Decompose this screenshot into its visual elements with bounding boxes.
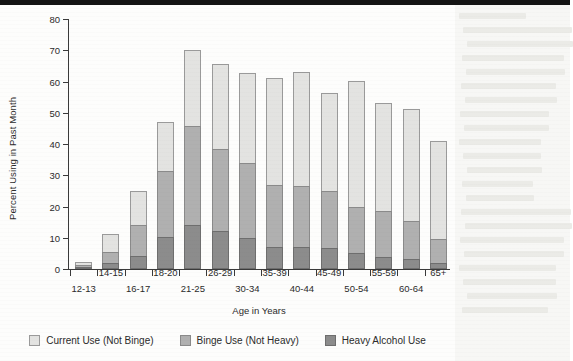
stacked-bar	[403, 109, 420, 269]
stacked-bar	[375, 103, 392, 269]
x-axis-category-label: 16-17	[126, 283, 150, 294]
stacked-bar	[157, 122, 174, 269]
stacked-bar	[184, 50, 201, 269]
bleedthrough-text-line	[464, 125, 549, 131]
bar-segment-binge-use	[348, 207, 365, 253]
x-axis-tick	[179, 270, 180, 276]
x-axis-category-label: 26-29	[208, 267, 232, 278]
bleedthrough-text-line	[462, 307, 548, 313]
bar-segment-current-use	[321, 93, 338, 191]
bar-segment-current-use	[266, 78, 283, 184]
y-axis-tick	[63, 238, 68, 239]
stacked-bar	[348, 81, 365, 269]
light-gray-swatch-icon	[29, 335, 40, 346]
y-axis-title: Percent Using in Past Month	[7, 69, 18, 249]
x-axis-category-label: 60-64	[399, 283, 423, 294]
x-axis-tick	[425, 270, 426, 276]
bar-segment-current-use	[430, 141, 447, 239]
legend-item-binge-use: Binge Use (Not Heavy)	[180, 335, 299, 346]
x-axis-category-label: 55-59	[372, 267, 396, 278]
bar-segment-heavy-alcohol-use	[348, 253, 365, 269]
y-axis-tick-label: 60	[49, 76, 60, 87]
bleedthrough-text-line	[459, 139, 541, 145]
legend-label: Heavy Alcohol Use	[342, 335, 426, 346]
y-axis-tick	[63, 144, 68, 145]
bleedthrough-text-line	[461, 209, 571, 215]
bleedthrough-text-line	[462, 181, 533, 187]
stacked-bar	[293, 72, 310, 270]
bleedthrough-text-line	[459, 13, 526, 19]
bar-segment-current-use	[130, 191, 147, 225]
x-axis-tick	[288, 270, 289, 276]
page-text-bleedthrough-panel	[455, 5, 570, 361]
y-axis-tick	[63, 19, 68, 20]
bar-segment-current-use	[293, 72, 310, 187]
medium-gray-swatch-icon	[180, 335, 191, 346]
bar-segment-binge-use	[293, 186, 310, 247]
bar-segment-heavy-alcohol-use	[293, 247, 310, 269]
bleedthrough-text-line	[467, 293, 557, 299]
bar-segment-heavy-alcohol-use	[75, 267, 92, 269]
bleedthrough-text-line	[465, 223, 572, 229]
stacked-bar	[130, 191, 147, 269]
bar-segment-current-use	[102, 234, 119, 252]
x-axis-tick	[70, 270, 71, 276]
y-axis-tick	[63, 269, 68, 270]
y-axis-tick	[63, 113, 68, 114]
bleedthrough-text-line	[466, 195, 534, 201]
bleedthrough-text-line	[463, 279, 556, 285]
y-axis-tick	[63, 82, 68, 83]
bar-segment-current-use	[375, 103, 392, 211]
stacked-bar	[102, 234, 119, 269]
bar-segment-binge-use	[266, 185, 283, 247]
bar-segment-binge-use	[184, 126, 201, 224]
bleedthrough-text-line	[466, 69, 565, 75]
x-axis-category-label: 40-44	[290, 283, 314, 294]
y-axis-tick-label: 40	[49, 139, 60, 150]
bleedthrough-text-line	[464, 251, 564, 257]
y-axis-tick	[63, 207, 68, 208]
chart-legend: Current Use (Not Binge) Binge Use (Not H…	[0, 335, 455, 346]
x-axis-category-label: 18-20	[153, 267, 177, 278]
bar-segment-heavy-alcohol-use	[130, 256, 147, 269]
bar-segment-current-use	[212, 64, 229, 148]
y-axis-tick-label: 20	[49, 201, 60, 212]
bar-segment-current-use	[157, 122, 174, 170]
bleedthrough-text-line	[467, 41, 573, 47]
bar-segment-heavy-alcohol-use	[266, 247, 283, 270]
bleedthrough-text-line	[460, 111, 549, 117]
x-axis-category-label: 35-39	[262, 267, 286, 278]
bleedthrough-text-line	[463, 27, 572, 33]
bleedthrough-text-line	[463, 153, 541, 159]
bleedthrough-text-line	[462, 55, 564, 61]
bar-segment-current-use	[239, 73, 256, 163]
bar-segment-heavy-alcohol-use	[157, 237, 174, 269]
legend-label: Current Use (Not Binge)	[46, 335, 153, 346]
bar-segment-heavy-alcohol-use	[184, 225, 201, 269]
bar-segment-binge-use	[212, 149, 229, 231]
stacked-bar	[321, 93, 338, 269]
bar-segment-heavy-alcohol-use	[239, 238, 256, 269]
bar-segment-binge-use	[321, 191, 338, 249]
y-axis-tick-label: 50	[49, 107, 60, 118]
bar-segment-current-use	[184, 50, 201, 126]
y-axis-tick-label: 30	[49, 170, 60, 181]
dark-gray-swatch-icon	[325, 335, 336, 346]
x-axis-tick	[234, 270, 235, 276]
bleedthrough-text-line	[465, 97, 557, 103]
x-axis-tick	[125, 270, 126, 276]
bar-segment-binge-use	[375, 211, 392, 256]
stacked-bar	[239, 73, 256, 269]
bar-segment-binge-use	[239, 163, 256, 237]
bar-segment-heavy-alcohol-use	[212, 231, 229, 269]
y-axis-tick	[63, 175, 68, 176]
legend-item-current-use: Current Use (Not Binge)	[29, 335, 153, 346]
bleedthrough-text-line	[460, 237, 564, 243]
x-axis-category-label: 30-34	[235, 283, 259, 294]
x-axis-category-label: 45-49	[317, 267, 341, 278]
plot-area: 01020304050607080	[68, 19, 450, 270]
bar-segment-binge-use	[403, 221, 420, 260]
x-axis-category-label: 12-13	[71, 283, 95, 294]
stacked-bar	[430, 141, 447, 269]
y-axis-tick-label: 80	[49, 14, 60, 25]
